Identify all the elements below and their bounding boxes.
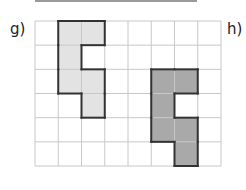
grid-diagram <box>0 0 246 190</box>
